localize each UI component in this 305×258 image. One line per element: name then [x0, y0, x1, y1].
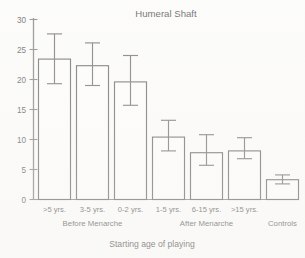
- bar-group-0[interactable]: [39, 34, 71, 200]
- x-group-label-before-menarche: Before Menarche: [63, 219, 123, 228]
- bar-group-1[interactable]: [77, 43, 109, 200]
- y-tick-label-15: 15: [17, 106, 27, 115]
- y-tick-label-5: 5: [21, 166, 26, 175]
- y-tick-label-10: 10: [17, 136, 27, 145]
- x-category-label-2: 0-2 yrs.: [118, 205, 143, 214]
- x-category-label-5: >15 yrs.: [231, 205, 258, 214]
- bar-group-3[interactable]: [153, 120, 185, 199]
- chart-title: Humeral Shaft: [135, 8, 197, 19]
- bar-group-4[interactable]: [191, 135, 223, 200]
- x-category-label-3: 1-5 yrs.: [156, 205, 181, 214]
- y-tick-label-20: 20: [17, 76, 27, 85]
- bar-group-2[interactable]: [115, 56, 147, 200]
- y-axis-tick-labels: 0 5 10 15 20 25 30: [17, 16, 27, 205]
- bar-group-6[interactable]: [267, 175, 299, 200]
- x-axis-group-labels: Before Menarche After Menarche Controls: [63, 219, 298, 228]
- y-tick-label-30: 30: [17, 16, 27, 25]
- x-category-label-0: >5 yrs.: [43, 205, 66, 214]
- y-tick-label-0: 0: [21, 196, 26, 205]
- x-axis-title: Starting age of playing: [109, 239, 195, 249]
- x-group-label-after-menarche: After Menarche: [180, 219, 233, 228]
- y-tick-label-25: 25: [17, 46, 27, 55]
- chart-figure: Humeral Shaft 0 5 10 15 20 25 30: [0, 0, 305, 258]
- x-axis-category-labels: >5 yrs. 3-5 yrs. 0-2 yrs. 1-5 yrs. 6-15 …: [43, 205, 258, 214]
- bar-group-5[interactable]: [229, 138, 261, 200]
- x-category-label-1: 3-5 yrs.: [80, 205, 105, 214]
- chart-svg: Humeral Shaft 0 5 10 15 20 25 30: [0, 0, 305, 258]
- x-category-label-4: 6-15 yrs.: [192, 205, 222, 214]
- x-group-label-controls: Controls: [268, 219, 297, 228]
